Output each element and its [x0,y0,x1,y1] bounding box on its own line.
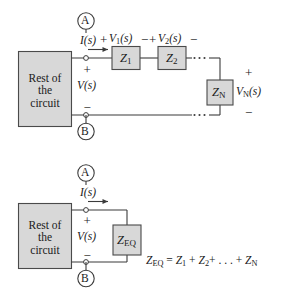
v2-label: V2(s) [158,33,181,46]
terminal-node-a-bottom [84,208,89,213]
z1-label: Z1 [120,51,131,66]
source-box-bottom-line3: circuit [19,244,72,256]
current-arrow-head-top [103,47,109,52]
terminal-node-a-top [84,56,89,61]
ellipsis-dots-top [193,57,205,59]
v1-minus: − [141,33,148,46]
current-arrow-head-bottom [103,199,109,204]
v2-minus: − [190,33,197,46]
zeq-label: ZEQ [117,233,136,248]
v2-plus: + [149,33,156,46]
source-box-top-text: Rest of the circuit [19,72,72,109]
source-box-top-line1: Rest of [19,72,72,84]
terminal-b-label-top: B [81,126,89,138]
terminal-a-label-top: A [81,15,89,27]
zn-label: ZN [212,85,225,100]
current-label-bottom: I(s) [80,187,96,199]
terminal-b-label-bottom: B [81,273,89,285]
source-box-top-line3: circuit [19,97,72,109]
equivalent-impedance-equation: ZEQ = Z1 + Z2+ . . . + ZN [146,255,257,268]
source-box-bottom-text: Rest of the circuit [19,219,72,256]
current-label-top: I(s) [80,35,96,47]
v1-plus: + [100,33,107,46]
figure-canvas: Rest of the circuit A B I(s) V(s) + − + … [0,0,281,302]
source-box-bottom-line1: Rest of [19,219,72,231]
source-voltage-label-top: V(s) [77,80,96,92]
ellipsis-dots-bottom [193,114,205,116]
source-box-bottom-line2: the [19,231,72,243]
vn-label: VN(s) [236,86,261,99]
source-box-top-line2: the [19,84,72,96]
v1-label: V1(s) [109,33,132,46]
source-minus-top: − [84,101,91,114]
source-minus-bottom: − [84,249,91,262]
source-voltage-label-bottom: V(s) [77,231,96,243]
z2-label: Z2 [166,51,177,66]
terminal-a-label-bottom: A [81,167,89,179]
vn-minus: − [245,106,252,119]
source-plus-top: + [84,63,91,76]
source-plus-bottom: + [84,214,91,227]
vn-plus: + [245,66,252,79]
